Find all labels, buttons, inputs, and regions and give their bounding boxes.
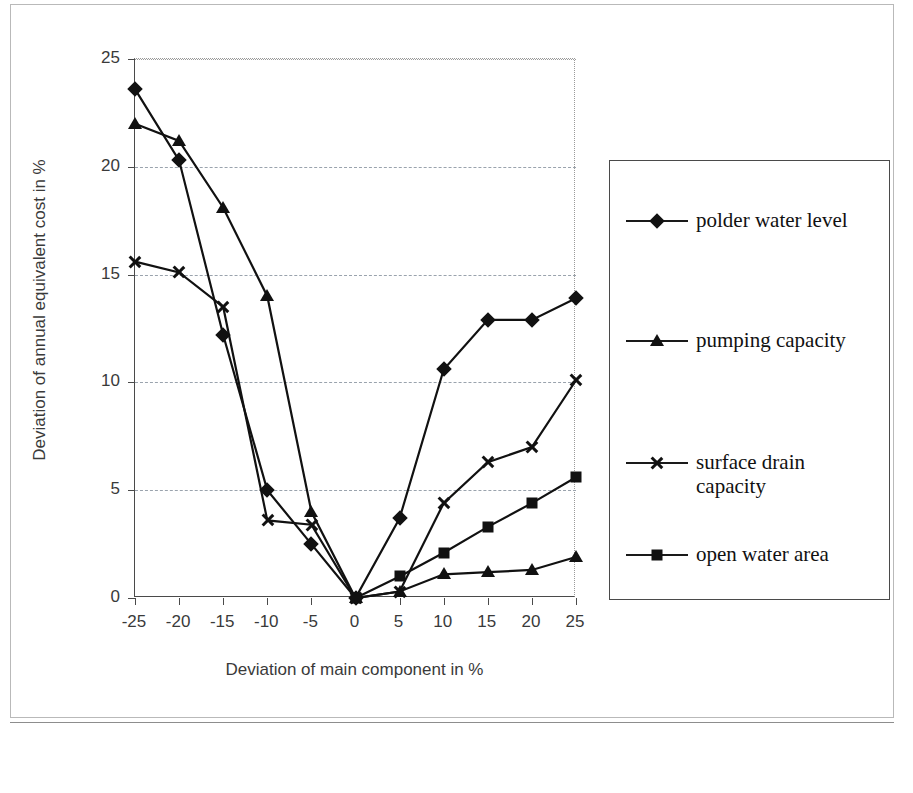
y-axis-tick [128,382,135,383]
x-axis-tick [532,598,533,605]
x-axis-tick [576,598,577,605]
square-marker [571,472,582,483]
triangle-marker [437,567,451,579]
x-axis-tick-label: -20 [158,612,198,632]
y-axis-tick [128,167,135,168]
cross-marker [216,299,231,314]
x-axis-tick [223,598,224,605]
x-axis-title: Deviation of main component in % [134,660,575,680]
series-lines [135,59,576,598]
cross-marker [524,440,539,455]
cross-marker [392,584,407,599]
y-axis-tick-label: 10 [86,371,120,391]
y-axis-tick-label: 20 [86,156,120,176]
plot-area [134,58,575,597]
legend-item: pumping capacity [624,329,882,353]
legend-item: open water area [624,543,882,567]
cross-marker [569,373,584,388]
x-axis-tick-label: -15 [202,612,242,632]
triangle-marker [569,550,583,562]
x-axis-tick-label: -5 [290,612,330,632]
triangle-marker [304,505,318,517]
y-axis-tick [128,598,135,599]
chart-figure: Deviation of annual equivalent cost in %… [0,0,913,793]
x-axis-tick [135,598,136,605]
diamond-marker [649,213,665,229]
square-marker [394,571,405,582]
square-marker [438,547,449,558]
chart-legend: polder water levelpumping capacitysurfac… [609,160,890,600]
legend-item: surface drain capacity [624,451,882,498]
cross-marker [304,517,319,532]
x-axis-tick-label: 10 [423,612,463,632]
cross-marker [172,265,187,280]
series-line [135,89,576,598]
triangle-marker [172,134,186,146]
y-axis-tick [128,490,135,491]
square-marker [652,550,663,561]
page-baseline-rule [10,722,894,723]
x-axis-tick [267,598,268,605]
y-axis-title: Deviation of annual equivalent cost in % [30,90,50,530]
x-axis-tick-label: -25 [114,612,154,632]
x-axis-tick-label: -10 [246,612,286,632]
y-axis-tick [128,275,135,276]
legend-marker-sample [624,545,690,565]
triangle-marker [525,563,539,575]
series-line [135,262,576,598]
x-axis-tick [444,598,445,605]
x-axis-tick-label: 0 [335,612,375,632]
y-axis-tick-label: 15 [86,264,120,284]
y-axis-tick-label: 0 [86,587,120,607]
x-axis-tick-label: 20 [511,612,551,632]
y-axis-tick [128,59,135,60]
cross-marker [128,254,143,269]
x-axis-tick-label: 25 [555,612,595,632]
square-marker [482,521,493,532]
y-axis-tick-label: 5 [86,479,120,499]
triangle-marker [481,565,495,577]
legend-marker-sample [624,453,690,473]
square-marker [526,498,537,509]
triangle-marker [260,289,274,301]
legend-label: surface drain capacity [690,451,846,498]
triangle-marker [128,117,142,129]
square-marker [350,593,361,604]
legend-label: pumping capacity [690,329,846,353]
legend-marker-sample [624,331,690,351]
triangle-marker [650,334,664,346]
series-line [135,124,576,598]
cross-marker [480,455,495,470]
legend-label: polder water level [690,209,848,233]
triangle-marker [216,201,230,213]
cross-marker [260,513,275,528]
cross-marker [650,456,665,471]
x-axis-tick [488,598,489,605]
y-axis-tick-label: 25 [86,48,120,68]
x-axis-tick [311,598,312,605]
x-axis-tick [179,598,180,605]
x-axis-tick-label: 15 [467,612,507,632]
cross-marker [436,496,451,511]
x-axis-tick-label: 5 [379,612,419,632]
x-axis-tick [400,598,401,605]
legend-label: open water area [690,543,829,567]
legend-marker-sample [624,211,690,231]
legend-item: polder water level [624,209,882,233]
